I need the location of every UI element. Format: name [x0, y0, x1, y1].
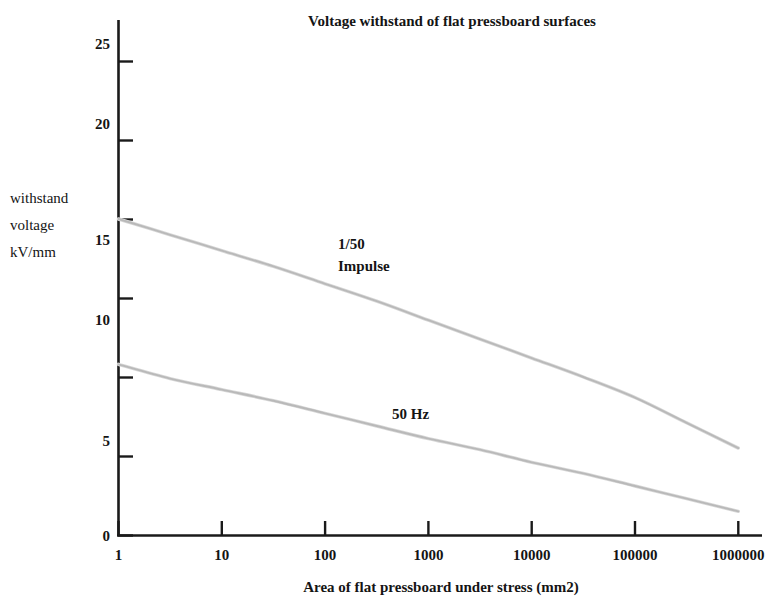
impulse-label-line-2: Impulse	[338, 258, 390, 274]
y-tick-label-20: 20	[95, 116, 110, 132]
chart-background	[0, 0, 778, 604]
x-tick-label-1000: 1000	[413, 547, 443, 563]
x-tick-label-100: 100	[314, 547, 337, 563]
chart-title: Voltage withstand of flat pressboard sur…	[308, 13, 596, 29]
x-tick-label-10: 10	[214, 547, 229, 563]
impulse-label-line-1: 1/50	[338, 236, 365, 252]
y-tick-label-5: 5	[103, 433, 111, 449]
x-tick-label-1: 1	[115, 547, 123, 563]
y-tick-label-15: 15	[95, 232, 110, 248]
voltage-withstand-chart: Voltage withstand of flat pressboard sur…	[0, 0, 778, 604]
y-axis-title-line-2: voltage	[10, 217, 54, 233]
y-axis-title-line-3: kV/mm	[10, 244, 56, 260]
x-tick-label-10000: 10000	[513, 547, 551, 563]
x-tick-label-100000: 100000	[613, 547, 658, 563]
x-tick-label-1000000: 1000000	[712, 547, 765, 563]
y-tick-label-10: 10	[95, 312, 110, 328]
y-tick-label-0: 0	[103, 528, 111, 544]
x-axis-title: Area of flat pressboard under stress (mm…	[303, 579, 579, 596]
y-axis-title-line-1: withstand	[10, 190, 69, 206]
chart-figure: Voltage withstand of flat pressboard sur…	[0, 0, 778, 604]
y-tick-label-25: 25	[95, 36, 110, 52]
mains-label: 50 Hz	[392, 406, 429, 422]
